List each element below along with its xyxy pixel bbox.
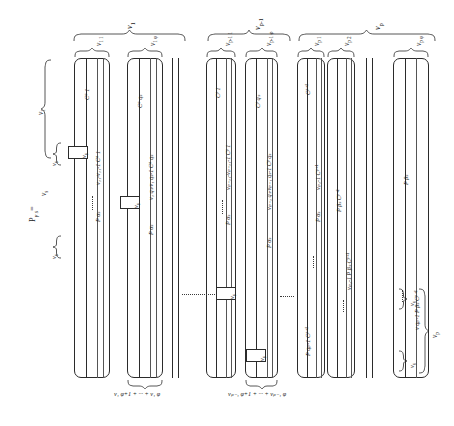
connector-dots-2 xyxy=(280,296,294,297)
block-p-group-phi-inner-line-b xyxy=(416,58,417,378)
block-p-mid-line-b xyxy=(372,58,373,378)
block-p-vertical-dots xyxy=(313,256,314,268)
label-P-beta-s-C-p-plus-1: P βₛ Cᵖ⁺¹ xyxy=(336,189,342,212)
block-p-1-group-phi-inner-line-b xyxy=(267,58,268,378)
block-1-group-1 xyxy=(74,58,110,378)
sub-brace-nu-p-2-col-label: νp 2 xyxy=(344,36,353,46)
nu-box-2-label: νs xyxy=(133,203,141,208)
label-nu1qs-minus-1-C-a-qs: ν₁ qₛ-ν₁ qₛ-1 Cᵃ qₛ xyxy=(148,155,154,200)
top-brace-nu-1-label: ν1 xyxy=(126,22,136,29)
block-1-tail-line-a xyxy=(172,58,173,378)
label-P-beta-s-qs-minus-1: P qₚ-1 Cᵖ⁺¹ xyxy=(305,327,311,356)
left-brace-nu-s-upper-label: νs xyxy=(51,161,59,166)
nu-box-4-label: νs xyxy=(259,356,267,361)
block-p-1-group-1-inner-line-a xyxy=(216,58,217,378)
bottom-brace-block-1-label: ν₁ φ+1 + ··· + ν₁ φ xyxy=(114,391,160,397)
block-p-mid-line-a xyxy=(366,58,367,378)
label-P-alpha-s-b1: P αₛ xyxy=(95,212,101,222)
connector-dots-1 xyxy=(182,294,215,295)
left-brace-nu-s-mid-label: νs xyxy=(41,191,50,196)
block-1-group-1-inner-line-a xyxy=(86,58,87,378)
right-brace-nu-p-label: νp xyxy=(432,332,441,338)
label-P-alpha-s-b1b: P αₛ xyxy=(148,225,154,235)
label-nup1qs-C-p-qs: νₚ₋₁ qₛ-νₚ₋₁ qₛ-1 Cᵖ qₛ xyxy=(266,154,272,210)
block-p-group-2-inner-line-a xyxy=(337,58,338,378)
label-P-beta-s-right: P βₛ xyxy=(403,175,409,185)
block-p-group-2-inner-line-c xyxy=(351,58,352,378)
bottom-brace-block-1 xyxy=(127,379,163,389)
label-P-alpha-s-bp: P αₛ xyxy=(315,212,321,222)
sub-brace-nu-1-phi xyxy=(127,48,163,58)
right-brace-nu-s-upper xyxy=(398,288,407,310)
sub-brace-nu-1-phi-label: ν1 φ xyxy=(150,36,159,46)
bottom-brace-block-p-1-label: νₚ₋₁ φ+1 + ··· + νₚ₋₁ φ xyxy=(228,391,286,397)
top-brace-nu-p-label: νp xyxy=(374,23,384,30)
left-brace-nu-s-lower-label: νs xyxy=(51,254,59,259)
top-brace-nu-p-minus-1-label: νp-1 xyxy=(254,18,264,30)
right-brace-nu-s-lower xyxy=(398,350,407,372)
right-brace-nu-p xyxy=(418,288,429,374)
label-nup11-C-p-1: νₚ₋₁₁-νₚ₋₁₁-1 Cᵖ 1 xyxy=(225,145,231,190)
sub-brace-nu-p-1-col-label: νp 1 xyxy=(314,36,323,46)
block-p-1-vertical-dots xyxy=(222,200,223,214)
top-brace-nu-1 xyxy=(73,30,186,42)
block-1-group-phi xyxy=(127,58,163,378)
sub-brace-nu-1-1 xyxy=(74,48,110,58)
partition-diagram: ν1 νp-1 νp ν1 1 ν1 φ νp-1 1 νp-1 φ νp 1 xyxy=(0,0,454,426)
block-p-vertical-dots-2 xyxy=(343,300,344,312)
equation-label: Pγ s= xyxy=(29,206,39,222)
label-P-alpha-s-bp1: P αₛ xyxy=(225,215,231,225)
label-nup1-minus-1-C-p-plus-1: νₚ₁-1 Cᵖ⁺¹ xyxy=(315,165,321,190)
sub-brace-nu-p-phi-label: νp φ xyxy=(416,36,425,46)
left-brace-nu-1-label: ν1 xyxy=(38,109,47,115)
sub-brace-nu-1-1-label: ν1 1 xyxy=(96,36,105,46)
label-C-a-q-s: Cᵃ qₛ xyxy=(137,95,143,108)
label-C-p-q-s: Cᵖ qₛ xyxy=(255,95,261,108)
block-1-tail-line-b xyxy=(178,58,179,378)
label-P-alpha-s-bp1b: P αₛ xyxy=(266,238,272,248)
block-p-1-group-phi xyxy=(245,58,278,378)
block-1-group-phi-inner-line-c xyxy=(156,58,157,378)
block-1-group-1-inner-line-c xyxy=(103,58,104,378)
sub-brace-nu-p-1-col xyxy=(297,48,325,58)
block-p-1-group-phi-inner-line-c xyxy=(272,58,273,378)
block-p-group-phi-inner-line-a xyxy=(405,58,406,378)
sub-brace-nu-p-2-col xyxy=(327,48,355,58)
label-C-p-1: Cᵖ 1 xyxy=(215,87,221,98)
label-nu11-minus-1-C-a-1: ν₁₁-ν₁₁-1 Cᵃ 1 xyxy=(95,151,101,185)
block-1-vertical-dots xyxy=(92,196,93,210)
sub-brace-nu-p-1-1 xyxy=(206,48,236,58)
top-brace-nu-p-minus-1 xyxy=(207,30,291,42)
label-C-a-1: Cᵃ 1 xyxy=(84,89,90,100)
bottom-brace-block-p-1 xyxy=(245,379,278,389)
sub-brace-nu-p-1-phi-label: νp-1 φ xyxy=(266,32,275,46)
block-p-group-2-inner-line-b xyxy=(346,58,347,378)
nu-box-3-label: νs xyxy=(229,294,237,299)
label-C-p-plus-1: Cᵖ⁺¹ xyxy=(305,84,311,95)
sub-brace-nu-p-1-1-label: νp-1 1 xyxy=(225,32,234,46)
sub-brace-nu-p-phi xyxy=(393,48,429,58)
right-brace-nu-s-upper-label: νs xyxy=(409,301,417,306)
sub-brace-nu-p-1-phi xyxy=(245,48,278,58)
nu-box-1-label: νs xyxy=(81,153,89,158)
label-nup1-minus-1-P-beta-s: νₚ₁-1 P βₛ Cᵖ⁺¹ xyxy=(346,253,352,290)
right-brace-nu-s-lower-label: νs xyxy=(409,363,417,368)
block-1-group-phi-inner-line-b xyxy=(150,58,151,378)
